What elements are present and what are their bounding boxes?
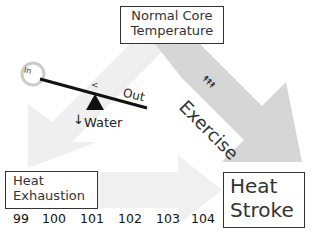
- scale-tick-103: 103: [156, 211, 180, 226]
- scale-tick-99: 99: [13, 211, 29, 226]
- normal-core-temperature-box: Normal Core Temperature: [120, 6, 224, 44]
- less-than-label: <: [91, 80, 99, 90]
- normal-core-temperature-line1: Normal Core: [121, 9, 223, 24]
- scale-tick-104: 104: [191, 211, 215, 226]
- scale-tick-102: 102: [118, 211, 142, 226]
- heat-stroke-line1: Heat: [230, 174, 304, 198]
- heat-stroke-box: Heat Stroke: [223, 172, 305, 228]
- scale-tick-101: 101: [80, 211, 104, 226]
- heat-stroke-line2: Stroke: [230, 198, 304, 222]
- water-label: Water: [84, 115, 122, 130]
- heat-exhaustion-box: Heat Exhaustion: [5, 171, 98, 209]
- heat-exhaustion-line1: Heat: [13, 174, 97, 189]
- down-arrow-icon: ↓: [73, 112, 84, 127]
- heat-exhaustion-line2: Exhaustion: [13, 189, 97, 204]
- normal-core-temperature-line2: Temperature: [121, 24, 223, 39]
- scale-tick-100: 100: [42, 211, 66, 226]
